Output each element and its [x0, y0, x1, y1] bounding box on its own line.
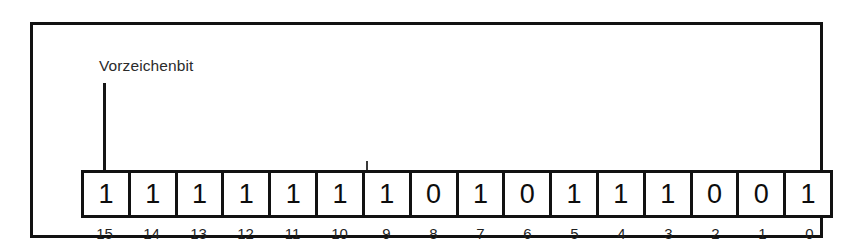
sign-bit-leader-line: [103, 83, 106, 170]
bit-index-label: 8: [410, 222, 457, 246]
bit-index-label: 11: [269, 222, 316, 246]
bit-cell[interactable]: 0: [739, 173, 786, 215]
bit-value: 1: [473, 181, 488, 208]
sign-bit-label: Vorzeichenbit: [99, 56, 193, 75]
bit-cell[interactable]: 1: [365, 173, 412, 215]
bit-index-label: 0: [786, 222, 833, 246]
bit-cell[interactable]: 1: [552, 173, 599, 215]
bit-index-label: 15: [81, 222, 128, 246]
bit-cell[interactable]: 0: [412, 173, 459, 215]
bit-value: 1: [286, 181, 301, 208]
bit-value: 1: [98, 181, 113, 208]
bit-index-label: 2: [692, 222, 739, 246]
bit-index-row: 1514131211109876543210: [81, 222, 833, 246]
bit-cell[interactable]: 1: [318, 173, 365, 215]
bit-value: 1: [145, 181, 160, 208]
bit-value: 1: [332, 181, 347, 208]
bit-index-label: 9: [363, 222, 410, 246]
bit-cell[interactable]: 0: [693, 173, 740, 215]
bit-value: 1: [567, 181, 582, 208]
bit-index-label: 6: [504, 222, 551, 246]
figure-root: Vorzeichenbit 1111111010111001 151413121…: [0, 0, 851, 252]
bit-value: 0: [426, 181, 441, 208]
bit-value: 1: [801, 181, 816, 208]
bit-index-label: 5: [551, 222, 598, 246]
bit-cell[interactable]: 1: [459, 173, 506, 215]
bit-index-label: 1: [739, 222, 786, 246]
bit-cell[interactable]: 1: [271, 173, 318, 215]
bit-index-label: 3: [645, 222, 692, 246]
bit-cell[interactable]: 1: [131, 173, 178, 215]
bit-cell[interactable]: 1: [84, 173, 131, 215]
bit-value: 1: [613, 181, 628, 208]
bit-cell[interactable]: 1: [786, 173, 830, 215]
bit-cell[interactable]: 0: [505, 173, 552, 215]
bit-cell[interactable]: 1: [224, 173, 271, 215]
bit-value: 1: [379, 181, 394, 208]
bit-value: 0: [520, 181, 535, 208]
bit-value: 1: [192, 181, 207, 208]
bit-cell[interactable]: 1: [178, 173, 225, 215]
bit-value: 1: [660, 181, 675, 208]
bit-value: 0: [707, 181, 722, 208]
bit-index-label: 14: [128, 222, 175, 246]
bit-index-label: 12: [222, 222, 269, 246]
bit-register: 1111111010111001: [81, 170, 833, 218]
bit-cell[interactable]: 1: [646, 173, 693, 215]
register-tick-mark: [366, 161, 368, 170]
bit-cell[interactable]: 1: [599, 173, 646, 215]
bit-index-label: 7: [457, 222, 504, 246]
bit-index-label: 4: [598, 222, 645, 246]
bit-value: 1: [239, 181, 254, 208]
bit-index-label: 13: [175, 222, 222, 246]
diagram-outer-frame: Vorzeichenbit 1111111010111001 151413121…: [30, 22, 823, 238]
bit-value: 0: [754, 181, 769, 208]
bit-index-label: 10: [316, 222, 363, 246]
